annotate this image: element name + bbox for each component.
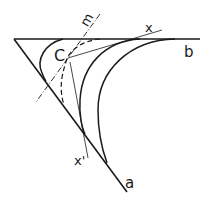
label-x-prime: x' <box>74 153 85 168</box>
middle-curve <box>80 39 140 134</box>
label-b: b <box>184 43 194 61</box>
line-a <box>14 39 127 192</box>
label-c: C <box>54 46 65 65</box>
label-a: a <box>125 174 134 192</box>
outer-curve <box>98 39 175 163</box>
geometry-diagram: m x b C x' a <box>0 0 212 207</box>
label-x: x <box>145 20 153 35</box>
label-m: m <box>77 10 96 28</box>
